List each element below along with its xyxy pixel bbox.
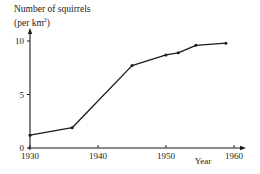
data-point — [29, 134, 32, 137]
y-tick-label: 10 — [15, 36, 25, 46]
data-point — [131, 64, 134, 67]
data-point — [224, 42, 227, 45]
data-point — [177, 51, 180, 54]
data-point — [165, 53, 168, 56]
x-axis-arrow-icon — [240, 146, 246, 150]
y-tick-label: 5 — [20, 90, 25, 100]
x-tick-label: 1950 — [157, 151, 176, 161]
data-line — [30, 43, 226, 135]
y-axis-label-line1: Number of squirrels — [14, 4, 91, 15]
data-point — [194, 44, 197, 47]
x-tick-label: 1960 — [225, 151, 244, 161]
data-point — [71, 126, 74, 129]
x-tick-label: 1940 — [89, 151, 108, 161]
y-axis-label: Number of squirrels (per km2) — [14, 4, 91, 29]
y-axis-label-line2: (per km2) — [14, 15, 91, 29]
x-axis-label: Year — [195, 156, 212, 166]
x-tick-label: 1930 — [21, 151, 40, 161]
line-chart: Number of squirrels (per km2) 0510193019… — [0, 0, 260, 174]
